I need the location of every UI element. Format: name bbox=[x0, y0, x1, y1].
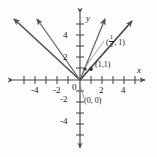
ray-up-right-outer bbox=[80, 21, 132, 80]
point-label-half-one: (12, 1) bbox=[106, 34, 125, 50]
marker-point-one-one bbox=[89, 67, 93, 71]
x-tick-label-2: 2 bbox=[99, 86, 104, 95]
coordinate-plane-svg bbox=[0, 0, 157, 157]
x-axis-label: x bbox=[137, 66, 141, 75]
x-tick-label-neg4: -4 bbox=[31, 86, 39, 95]
y-tick-label-neg4: -4 bbox=[60, 117, 68, 126]
origin-label: 0 bbox=[72, 83, 77, 92]
y-axis-label: y bbox=[86, 14, 90, 23]
y-tick-label-neg2: -2 bbox=[60, 95, 68, 104]
marker-point-half-one bbox=[83, 67, 86, 70]
point-label-rest: , 1) bbox=[114, 38, 125, 47]
y-tick-label-4: 4 bbox=[63, 31, 68, 40]
point-label-zero-zero: (0, 0) bbox=[84, 97, 101, 105]
ray-up-left-outer bbox=[14, 19, 80, 80]
point-label-one-one: (1,1) bbox=[95, 61, 110, 69]
graph-figure: y x 0 -4 -2 2 4 4 2 -2 -4 (12, 1) (1,1) … bbox=[0, 0, 157, 157]
x-tick-label-4: 4 bbox=[121, 86, 126, 95]
ray-up-left-inner bbox=[37, 19, 80, 80]
ray-up-right-inner bbox=[80, 19, 105, 80]
y-tick-label-2: 2 bbox=[63, 53, 68, 62]
